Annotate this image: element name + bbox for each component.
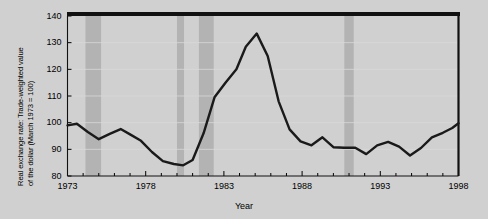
chart-figure: Real exchange rate: Trade-weighted value… (0, 0, 488, 219)
y-tick-label-90: 90 (38, 145, 62, 154)
x-tick-label-1993: 1993 (363, 182, 397, 191)
x-tick-label-1983: 1983 (207, 182, 241, 191)
data-line-dollar-index (68, 34, 459, 166)
x-tick-label-1988: 1988 (285, 182, 319, 191)
x-tick-label-1973: 1973 (51, 182, 85, 191)
y-tick-label-100: 100 (38, 118, 62, 127)
x-tick-label-1978: 1978 (129, 182, 163, 191)
axis-frame (67, 14, 460, 176)
y-tick-label-130: 130 (38, 38, 62, 47)
y-tick-label-140: 140 (38, 12, 62, 21)
y-tick-label-80: 80 (38, 172, 62, 181)
x-tick-label-1998: 1998 (442, 182, 476, 191)
y-tick-label-110: 110 (38, 92, 62, 101)
y-tick-label-120: 120 (38, 65, 62, 74)
x-axis-title: Year (214, 202, 274, 211)
